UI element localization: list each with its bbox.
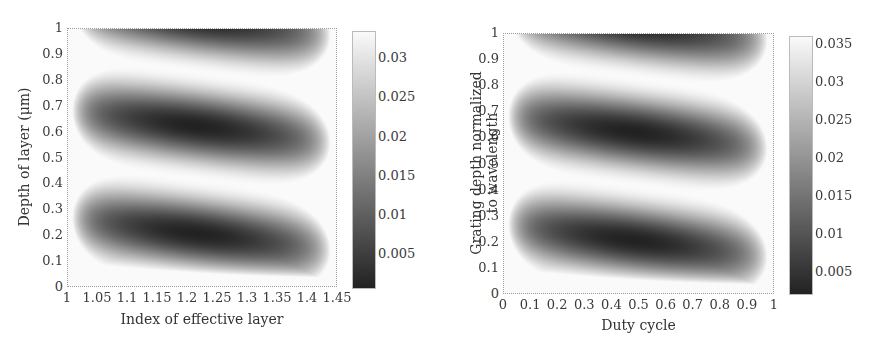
tick-label: 0.5 bbox=[33, 151, 63, 164]
tick-label: 0.1 bbox=[33, 254, 63, 267]
right-colorbar-canvas bbox=[790, 37, 812, 294]
tick-label: 0.015 bbox=[378, 169, 415, 182]
tick-label: 0.03 bbox=[378, 51, 407, 64]
tick-label: 0.2 bbox=[33, 228, 63, 241]
left-heatmap bbox=[67, 28, 337, 287]
tick-label: 1 bbox=[754, 298, 794, 311]
tick-label: 0.03 bbox=[815, 75, 844, 88]
right-y-axis-label-line1: Grating depth normalized bbox=[468, 63, 484, 263]
tick-label: 0.01 bbox=[815, 227, 844, 240]
left-colorbar bbox=[352, 31, 376, 289]
left-y-axis-label: Depth of layer (μm) bbox=[16, 77, 32, 237]
left-x-axis-label: Index of effective layer bbox=[67, 311, 337, 327]
tick-label: 1.45 bbox=[317, 291, 357, 304]
tick-label: 0.7 bbox=[33, 99, 63, 112]
left-colorbar-canvas bbox=[353, 32, 375, 288]
tick-label: 0.02 bbox=[815, 151, 844, 164]
tick-label: 1 bbox=[33, 21, 63, 34]
left-heatmap-canvas bbox=[68, 29, 336, 286]
right-colorbar bbox=[789, 36, 813, 295]
tick-label: 0.02 bbox=[378, 130, 407, 143]
tick-label: 0.005 bbox=[378, 247, 415, 260]
tick-label: 0.015 bbox=[815, 189, 852, 202]
tick-label: 0.025 bbox=[378, 90, 415, 103]
tick-label: 0.3 bbox=[33, 202, 63, 215]
tick-label: 0.035 bbox=[815, 37, 852, 50]
tick-label: 0.01 bbox=[378, 208, 407, 221]
tick-label: 0.4 bbox=[33, 176, 63, 189]
tick-label: 0.8 bbox=[33, 73, 63, 86]
tick-label: 0.005 bbox=[815, 265, 852, 278]
tick-label: 0.6 bbox=[33, 125, 63, 138]
tick-label: 1 bbox=[469, 26, 499, 39]
tick-label: 0.025 bbox=[815, 113, 852, 126]
right-y-axis-label: Grating depth normalized to wavelength bbox=[468, 63, 502, 263]
right-y-axis-label-line2: to wavelength bbox=[484, 63, 500, 263]
right-heatmap-canvas bbox=[504, 34, 773, 293]
right-x-axis-label: Duty cycle bbox=[503, 317, 774, 333]
right-heatmap bbox=[503, 33, 774, 294]
tick-label: 0.9 bbox=[33, 47, 63, 60]
